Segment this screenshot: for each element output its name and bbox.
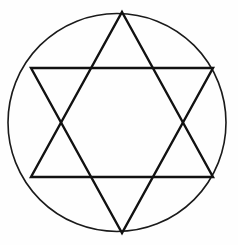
figure-canvas: Star of David (hexagram) inscribed in a … <box>0 0 238 245</box>
figure-background <box>0 0 238 245</box>
hexagram-figure <box>0 0 238 245</box>
